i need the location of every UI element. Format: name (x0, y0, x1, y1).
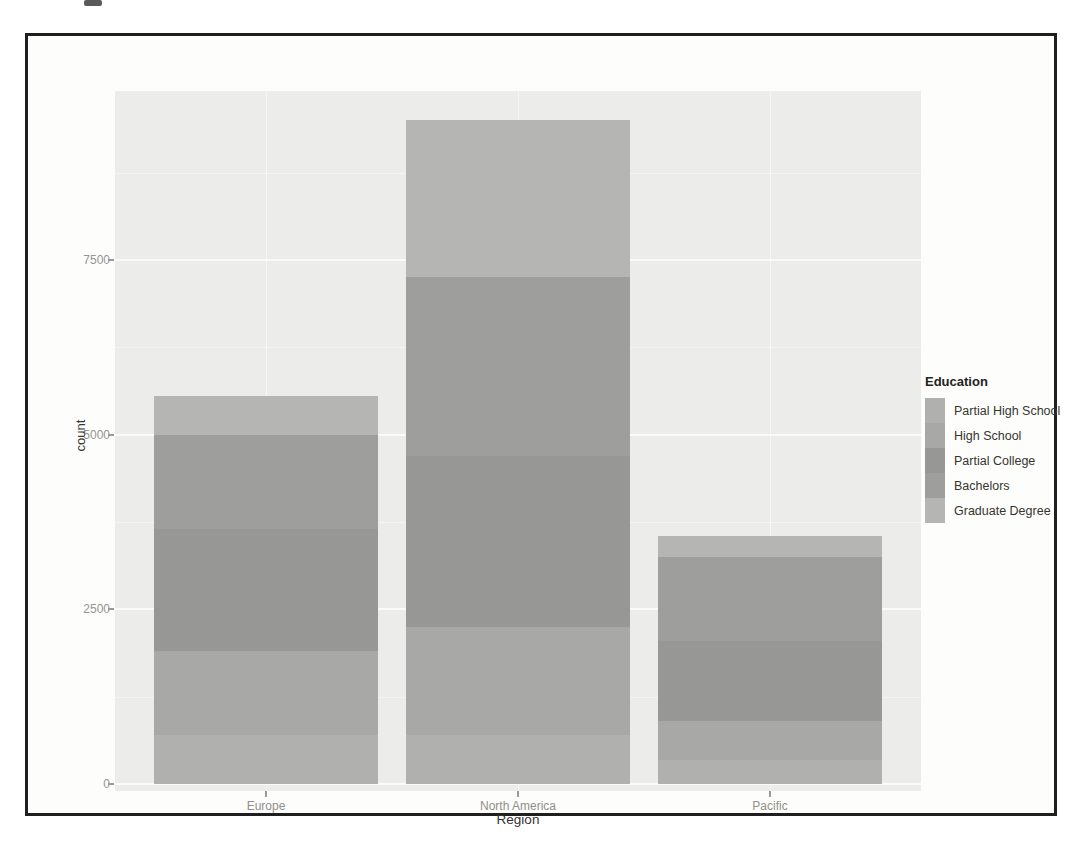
bar-segment (406, 627, 630, 735)
bar-segment (154, 529, 378, 651)
bar-segment (658, 721, 882, 759)
bar-segment (154, 396, 378, 434)
legend: Education Partial High SchoolHigh School… (925, 374, 1082, 523)
x-tick-mark (517, 791, 519, 797)
legend-item: Partial College (925, 448, 1082, 473)
legend-label: Partial High School (945, 404, 1060, 418)
legend-swatch (925, 423, 945, 448)
y-tick-mark (108, 608, 114, 610)
bar-segment (658, 557, 882, 641)
legend-label: High School (945, 429, 1021, 443)
y-tick-mark (108, 434, 114, 436)
y-tick-label: 7500 (64, 253, 110, 267)
x-tick-label: Pacific (700, 799, 840, 813)
legend-item: Partial High School (925, 398, 1082, 423)
legend-title: Education (925, 374, 1082, 389)
plot-panel (115, 91, 921, 791)
figure-frame: 0250050007500 EuropeNorth AmericaPacific… (25, 33, 1057, 816)
bar-segment (658, 536, 882, 557)
bar-segment (406, 277, 630, 455)
x-tick-label: Europe (196, 799, 336, 813)
legend-item: Graduate Degree (925, 498, 1082, 523)
x-axis-title: Region (418, 812, 618, 827)
bar-segment (406, 120, 630, 277)
legend-swatch (925, 498, 945, 523)
legend-swatch (925, 473, 945, 498)
x-tick-mark (265, 791, 267, 797)
y-tick-label: 2500 (64, 602, 110, 616)
bar-segment (154, 735, 378, 784)
y-tick-mark (108, 783, 114, 785)
scan-artifact-mark (84, 0, 102, 6)
bar-segment (154, 651, 378, 735)
bar-segment (658, 641, 882, 721)
y-axis-title: count (73, 396, 88, 476)
legend-swatch (925, 398, 945, 423)
legend-item: Bachelors (925, 473, 1082, 498)
bar-segment (154, 435, 378, 529)
legend-label: Bachelors (945, 479, 1010, 493)
y-tick-mark (108, 259, 114, 261)
x-tick-label: North America (448, 799, 588, 813)
legend-label: Partial College (945, 454, 1035, 468)
y-tick-label: 0 (64, 777, 110, 791)
x-tick-mark (769, 791, 771, 797)
bar-segment (406, 735, 630, 784)
legend-items: Partial High SchoolHigh SchoolPartial Co… (925, 398, 1082, 523)
bar-segment (658, 760, 882, 784)
bar-segment (406, 456, 630, 627)
legend-item: High School (925, 423, 1082, 448)
legend-swatch (925, 448, 945, 473)
legend-label: Graduate Degree (945, 504, 1051, 518)
